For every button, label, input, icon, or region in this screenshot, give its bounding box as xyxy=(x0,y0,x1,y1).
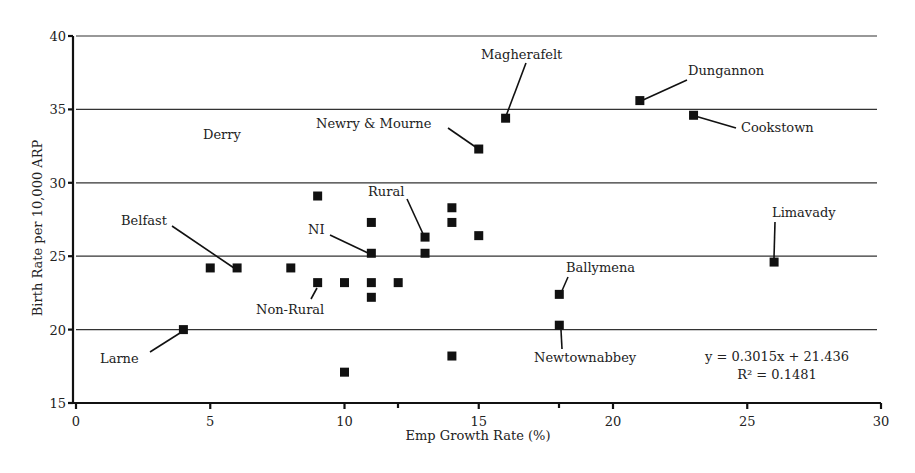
data-point-larne xyxy=(179,325,188,334)
leader-line xyxy=(407,199,424,236)
data-point xyxy=(367,218,376,227)
r-squared-value: R² = 0.1481 xyxy=(737,367,817,382)
data-points xyxy=(179,96,779,377)
point-label-belfast: Belfast xyxy=(121,213,168,228)
x-tick-label-10: 10 xyxy=(336,414,353,429)
data-point xyxy=(367,293,376,302)
y-axis-title: Birth Rate per 10,000 ARP xyxy=(30,140,45,317)
leader-line xyxy=(561,330,562,349)
data-point-magherafelt xyxy=(501,114,510,123)
point-label-magherafelt: Magherafelt xyxy=(481,47,563,62)
x-tick-label-20: 20 xyxy=(605,414,622,429)
data-point-newry-mourne xyxy=(474,145,483,154)
y-tick-label-35: 35 xyxy=(49,102,66,117)
scatter-chart: 152025303540 051015202530 LarneBelfastNo… xyxy=(0,0,915,473)
data-point-newtownabbey xyxy=(555,321,564,330)
point-label-cookstown: Cookstown xyxy=(741,120,814,135)
data-point-cookstown xyxy=(689,111,698,120)
data-point xyxy=(394,278,403,287)
point-label-ballymena: Ballymena xyxy=(566,260,635,275)
data-point-ballymena xyxy=(555,290,564,299)
point-labels: LarneBelfastNon-RuralNIRuralNewry & Mour… xyxy=(100,47,836,366)
y-tick-label-25: 25 xyxy=(49,249,66,264)
point-label-limavady: Limavady xyxy=(772,205,836,220)
data-point-rural xyxy=(421,233,430,242)
data-point xyxy=(206,263,215,272)
point-label-larne: Larne xyxy=(100,351,139,366)
x-tick-label-30: 30 xyxy=(873,414,890,429)
leader-line xyxy=(311,288,317,299)
leader-line xyxy=(774,222,775,258)
x-tick-label-15: 15 xyxy=(470,414,487,429)
data-point xyxy=(286,263,295,272)
data-point xyxy=(313,192,322,201)
data-point xyxy=(421,249,430,258)
point-label-dungannon: Dungannon xyxy=(688,63,765,78)
point-label-non-rural: Non-Rural xyxy=(256,302,324,317)
point-label-newry-mourne: Newry & Mourne xyxy=(316,116,432,131)
data-point xyxy=(340,278,349,287)
x-tick-label-5: 5 xyxy=(206,414,214,429)
x-tick-label-0: 0 xyxy=(72,414,80,429)
leader-line xyxy=(506,63,526,116)
data-point xyxy=(447,203,456,212)
data-point xyxy=(447,218,456,227)
data-point-ni xyxy=(367,249,376,258)
data-point xyxy=(447,352,456,361)
label-leader-lines xyxy=(150,63,775,352)
y-tick-label-30: 30 xyxy=(49,176,66,191)
y-axis-ticks: 152025303540 xyxy=(49,29,73,411)
data-point xyxy=(340,368,349,377)
leader-line xyxy=(448,128,477,148)
y-tick-label-15: 15 xyxy=(49,396,66,411)
axes xyxy=(73,36,881,403)
y-tick-label-40: 40 xyxy=(49,29,66,44)
leader-line xyxy=(330,235,368,253)
point-label-rural: Rural xyxy=(368,184,404,199)
leader-line xyxy=(643,80,687,100)
point-label-ni: NI xyxy=(308,222,325,237)
leader-line xyxy=(150,333,180,352)
point-label-newtownabbey: Newtownabbey xyxy=(534,350,637,365)
data-point-dungannon xyxy=(635,96,644,105)
horizontal-gridlines xyxy=(76,36,877,330)
data-point-belfast xyxy=(233,263,242,272)
x-axis-ticks: 051015202530 xyxy=(72,403,889,429)
x-axis-title: Emp Growth Rate (%) xyxy=(406,428,551,443)
data-point xyxy=(474,231,483,240)
trendline-equation: y = 0.3015x + 21.436 xyxy=(704,349,849,364)
data-point-non-rural xyxy=(313,278,322,287)
data-point-limavady xyxy=(770,258,779,267)
x-tick-label-25: 25 xyxy=(739,414,756,429)
data-point xyxy=(367,278,376,287)
y-tick-label-20: 20 xyxy=(49,323,66,338)
annotation-derry: Derry xyxy=(203,127,242,142)
leader-line xyxy=(172,226,234,268)
leader-line xyxy=(695,116,736,128)
